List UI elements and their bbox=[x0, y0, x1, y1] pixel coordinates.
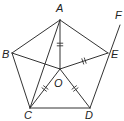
label-e: E bbox=[111, 49, 118, 60]
geometry-figure bbox=[0, 0, 124, 121]
label-a: A bbox=[56, 3, 63, 14]
pentagon-diagram: A B E O C D F bbox=[0, 0, 124, 121]
label-c: C bbox=[24, 110, 32, 121]
segment-ae bbox=[60, 20, 108, 53]
tick-mark-od bbox=[74, 88, 78, 91]
tick-mark-od bbox=[72, 86, 76, 89]
tick-mark-oc bbox=[42, 88, 46, 91]
segment-ab bbox=[12, 20, 60, 53]
label-f: F bbox=[115, 10, 122, 21]
label-b: B bbox=[2, 49, 9, 60]
segment-bo bbox=[12, 53, 60, 69]
segment-ac bbox=[30, 20, 60, 108]
segment-od bbox=[60, 69, 90, 108]
label-d: D bbox=[85, 110, 93, 121]
tick-mark-oc bbox=[44, 86, 48, 89]
segment-oe bbox=[60, 53, 108, 69]
label-o: O bbox=[54, 78, 63, 89]
segment-bc bbox=[12, 53, 30, 108]
segment-df bbox=[90, 25, 120, 108]
